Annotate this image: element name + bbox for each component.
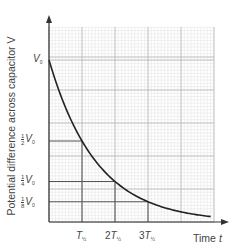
x-axis-arrow-icon xyxy=(221,219,229,225)
x-axis-label: Time t xyxy=(193,232,222,244)
xtick-2-t-half: 2T½ xyxy=(105,231,121,242)
ytick-eighth-v0: 18V0 xyxy=(21,196,35,209)
xtick-t-half: T½ xyxy=(76,231,86,242)
decay-chart xyxy=(0,0,239,251)
ytick-v0: V0 xyxy=(33,54,42,65)
y-axis-arrow-icon xyxy=(46,15,52,23)
ytick-half-v0: 12V0 xyxy=(21,133,35,146)
xtick-3-t-half: 3T½ xyxy=(139,231,155,242)
y-axis-label: Potential difference across capacitor V xyxy=(2,0,20,251)
ytick-quarter-v0: 14V0 xyxy=(21,174,35,187)
